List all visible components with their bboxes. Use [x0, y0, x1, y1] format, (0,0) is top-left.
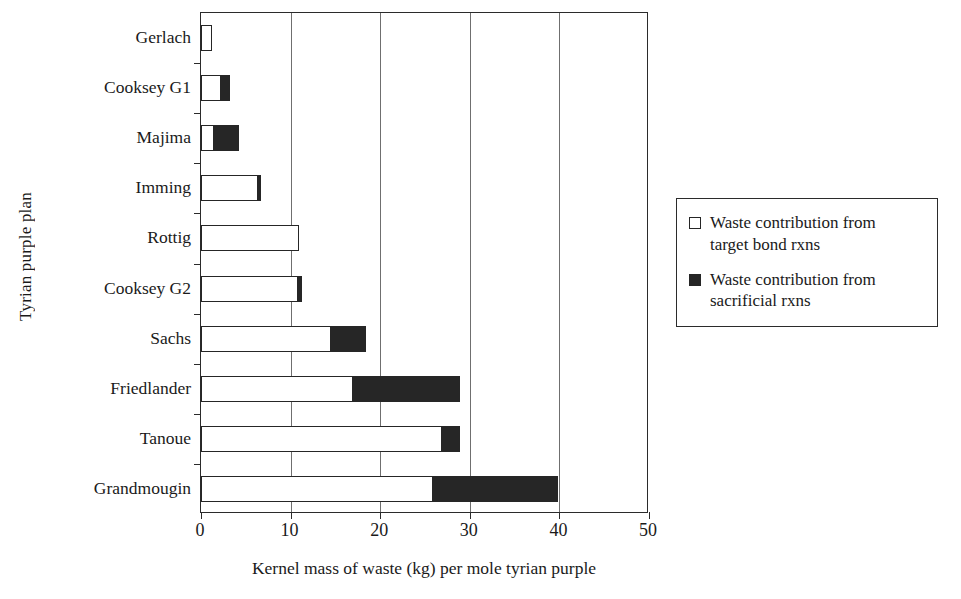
x-axis-tick-labels: 01020304050: [200, 520, 648, 546]
y-axis-tick-mark: [194, 163, 201, 164]
y-axis-tick-mark: [194, 464, 201, 465]
x-axis-tick-label: 40: [549, 520, 567, 541]
y-axis-tick-mark: [194, 364, 201, 365]
legend-label-line2: target bond rxns: [710, 235, 820, 254]
bar-segment-sacrificial: [330, 326, 366, 352]
y-axis-tick-label: Cooksey G1: [104, 77, 191, 97]
plot-area: [200, 12, 648, 513]
legend-item-label: Waste contribution from sacrificial rxns: [710, 269, 876, 313]
legend-label-line1: Waste contribution from: [710, 270, 876, 289]
bar-stack[interactable]: [201, 276, 302, 302]
bar-stack[interactable]: [201, 476, 558, 502]
filled-square-icon: [689, 274, 701, 286]
y-axis-tick-mark: [194, 63, 201, 64]
chart-figure: Tyrian purple plan GerlachCooksey G1Maji…: [0, 0, 961, 599]
y-axis-tick-label: Sachs: [150, 328, 191, 348]
bar-segment-target-bond: [201, 276, 297, 302]
x-axis-tick-mark: [649, 512, 650, 519]
x-axis-tick-mark: [291, 512, 292, 519]
y-axis-tick-label: Gerlach: [136, 27, 191, 47]
x-axis-tick-mark: [559, 512, 560, 519]
bar-segment-target-bond: [201, 225, 299, 251]
bar-segment-sacrificial: [352, 376, 460, 402]
bar-stack[interactable]: [201, 426, 460, 452]
bar-segment-sacrificial: [441, 426, 460, 452]
y-axis-tick-mark: [194, 264, 201, 265]
bar-segment-sacrificial: [220, 75, 230, 101]
gridline-vertical: [559, 13, 560, 512]
y-axis-tick-mark: [194, 213, 201, 214]
bar-segment-sacrificial: [297, 276, 302, 302]
bar-segment-target-bond: [201, 426, 441, 452]
y-axis-tick-label: Imming: [136, 177, 191, 197]
y-axis-tick-labels: GerlachCooksey G1MajimaImmingRottigCooks…: [40, 12, 195, 513]
y-axis-tick-mark: [194, 113, 201, 114]
x-axis-tick-mark: [201, 512, 202, 519]
legend-box: Waste contribution from target bond rxns…: [676, 198, 938, 327]
x-axis-tick-label: 0: [196, 520, 205, 541]
bar-segment-target-bond: [201, 175, 257, 201]
legend-label-line2: sacrificial rxns: [710, 291, 811, 310]
bar-segment-target-bond: [201, 326, 330, 352]
bar-stack[interactable]: [201, 225, 299, 251]
y-axis-tick-label: Cooksey G2: [104, 278, 191, 298]
legend-item-target-bond[interactable]: Waste contribution from target bond rxns: [689, 212, 925, 256]
legend-item-sacrificial[interactable]: Waste contribution from sacrificial rxns: [689, 269, 925, 313]
x-axis-tick-mark: [380, 512, 381, 519]
bar-segment-target-bond: [201, 476, 432, 502]
y-axis-tick-label: Rottig: [147, 227, 191, 247]
bar-stack[interactable]: [201, 376, 460, 402]
x-axis-tick-label: 30: [460, 520, 478, 541]
bar-segment-target-bond: [201, 125, 213, 151]
legend-item-label: Waste contribution from target bond rxns: [710, 212, 876, 256]
y-axis-tick-label: Friedlander: [110, 378, 191, 398]
x-axis-title: Kernel mass of waste (kg) per mole tyria…: [200, 558, 648, 579]
legend-label-line1: Waste contribution from: [710, 213, 876, 232]
bar-stack[interactable]: [201, 25, 212, 51]
y-axis-tick-label: Majima: [137, 127, 191, 147]
bar-segment-sacrificial: [213, 125, 239, 151]
bar-segment-target-bond: [201, 376, 352, 402]
bar-segment-sacrificial: [432, 476, 558, 502]
bar-segment-target-bond: [201, 25, 212, 51]
y-axis-tick-label: Tanoue: [140, 428, 191, 448]
bar-stack[interactable]: [201, 175, 261, 201]
bar-segment-sacrificial: [257, 175, 261, 201]
gridline-vertical: [470, 13, 471, 512]
y-axis-title-text: Tyrian purple plan: [16, 192, 36, 321]
bar-segment-target-bond: [201, 75, 220, 101]
y-axis-tick-label: Grandmougin: [94, 478, 191, 498]
bar-stack[interactable]: [201, 326, 366, 352]
x-axis-tick-label: 50: [639, 520, 657, 541]
x-axis-tick-label: 20: [370, 520, 388, 541]
open-square-icon: [689, 217, 701, 229]
bar-stack[interactable]: [201, 75, 230, 101]
x-axis-tick-label: 10: [281, 520, 299, 541]
x-axis-tick-mark: [470, 512, 471, 519]
y-axis-tick-mark: [194, 414, 201, 415]
bar-stack[interactable]: [201, 125, 239, 151]
y-axis-tick-mark: [194, 314, 201, 315]
